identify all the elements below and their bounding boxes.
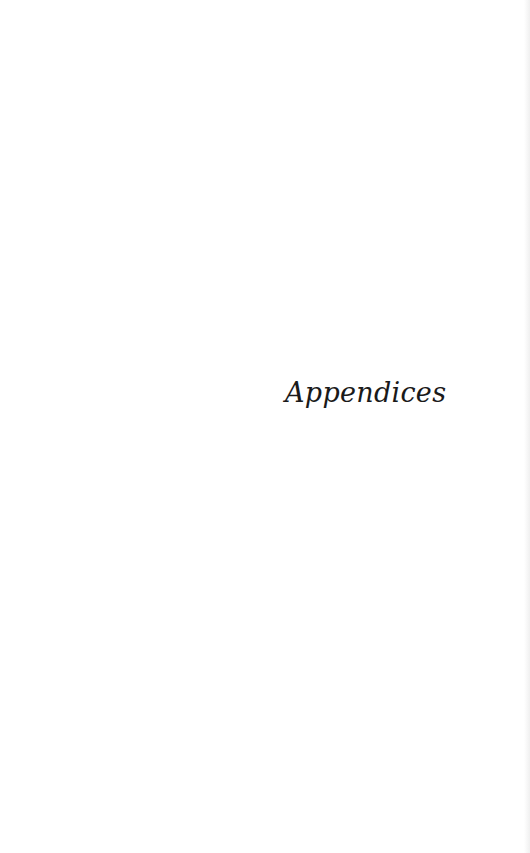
section-heading: Appendices [285, 377, 446, 408]
page-edge-shadow [524, 0, 530, 853]
book-page: Appendices [0, 0, 530, 853]
